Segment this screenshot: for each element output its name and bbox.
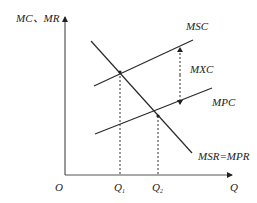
- mpc-label: MPC: [211, 96, 236, 108]
- msc-label: MSC: [185, 20, 209, 32]
- demand-curve: [91, 41, 192, 153]
- origin-label: O: [55, 181, 63, 193]
- market-equilibrium-point: [156, 114, 159, 117]
- demand-label: MSR=MPR: [197, 150, 250, 162]
- q1-label: Q1: [114, 181, 125, 194]
- social-optimum-point: [118, 70, 121, 73]
- q2-label: Q2: [152, 181, 163, 194]
- msc-curve: [94, 40, 193, 86]
- y-axis-label: MC、MR: [15, 12, 60, 24]
- externality-diagram: MC、MR Q O MSC MXC MPC MSR=MPR Q1 Q2: [0, 0, 257, 203]
- mxc-label: MXC: [189, 63, 214, 75]
- x-axis-label: Q: [230, 181, 238, 193]
